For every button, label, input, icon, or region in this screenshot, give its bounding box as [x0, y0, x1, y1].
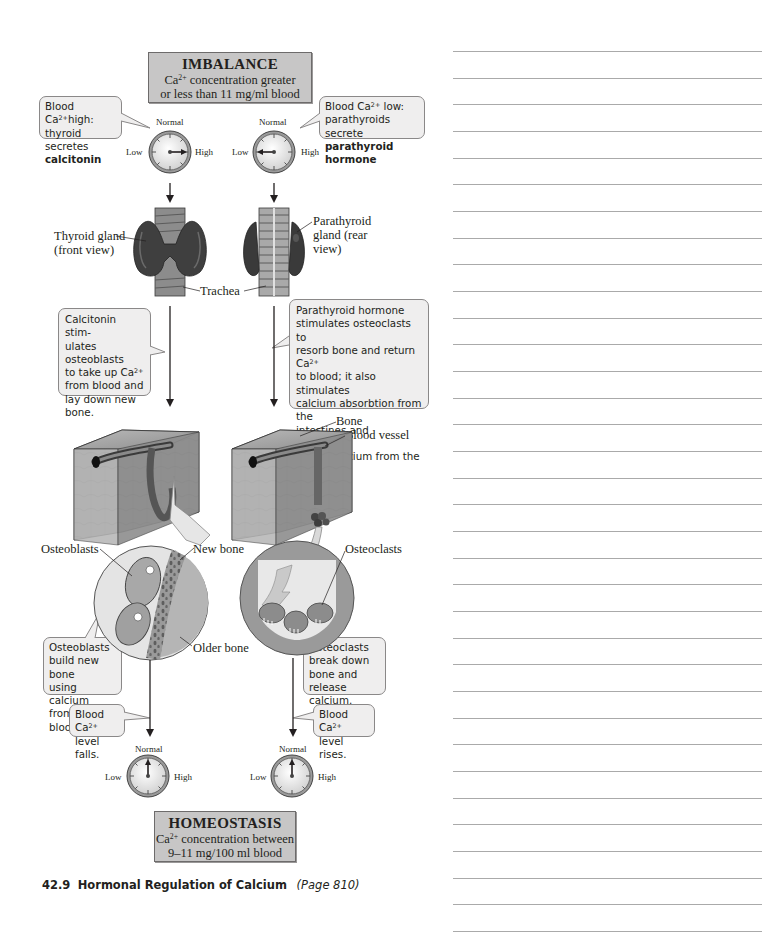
dial-bottom-left: [127, 755, 169, 797]
notes-ruled-line: [453, 398, 762, 399]
dial-bottom-right-normal-label: Normal: [279, 744, 307, 754]
osteoclasts-label: Osteoclasts: [345, 542, 402, 556]
parathyroid-gland-illustration: [244, 208, 312, 296]
figure-title: Hormonal Regulation of Calcium: [78, 878, 287, 892]
dial-top-left-low-label: Low: [126, 147, 143, 157]
bubble-blood-ca-low: Blood Ca2+ low: parathyroids secrete par…: [319, 96, 425, 139]
homeostasis-line-2: 9–11 mg/100 ml blood: [155, 846, 295, 860]
dial-top-right-normal-label: Normal: [259, 117, 287, 127]
bubble-blood-ca-high: Blood Ca2+high: thyroid secretes calcito…: [39, 96, 122, 139]
dial-top-left: [149, 131, 191, 173]
bone-cube-left-illustration: [74, 430, 210, 545]
notes-ruled-line: [453, 371, 762, 372]
notes-ruled-line: [453, 904, 762, 905]
imbalance-box: IMBALANCE Ca2+ concentration greater or …: [148, 52, 312, 103]
imbalance-title: IMBALANCE: [149, 56, 311, 73]
notes-ruled-line: [453, 824, 762, 825]
bubble-osteoblasts-build: Osteoblasts build new bone using calcium…: [43, 637, 122, 695]
thyroid-gland-illustration: [116, 208, 206, 296]
notes-ruled-line: [453, 291, 762, 292]
imbalance-line-1: Ca2+ concentration greater: [149, 73, 311, 87]
notes-ruled-line: [453, 451, 762, 452]
bubble-pth-action: Parathyroid hormone stimulates osteoclas…: [289, 299, 429, 409]
thyroid-gland-label: Thyroid gland (front view): [54, 229, 125, 257]
dial-top-right: [253, 131, 295, 173]
notes-ruled-line: [453, 238, 762, 239]
notes-ruled-line: [453, 131, 762, 132]
notes-ruled-line: [453, 184, 762, 185]
trachea-label: Trachea: [200, 284, 240, 298]
dial-bottom-right-high-label: High: [318, 772, 336, 782]
notes-ruled-line: [453, 878, 762, 879]
dial-top-right-low-label: Low: [232, 147, 249, 157]
notes-ruled-line: [453, 584, 762, 585]
parathyroid-gland-label: Parathyroid gland (rear view): [313, 214, 371, 256]
notes-ruled-line: [453, 718, 762, 719]
bone-label: Bone: [336, 414, 362, 428]
notes-ruled-line: [453, 78, 762, 79]
figure-number: 42.9: [42, 878, 70, 892]
notes-ruled-line: [453, 798, 762, 799]
bubble-calcitonin-action: Calcitonin stim- ulates osteoblasts to t…: [58, 308, 151, 396]
notes-ruled-line: [453, 504, 762, 505]
notes-ruled-line: [453, 211, 762, 212]
older-bone-label: Older bone: [193, 641, 249, 655]
notes-ruled-line: [453, 264, 762, 265]
notes-ruled-line: [453, 558, 762, 559]
dial-top-left-high-label: High: [195, 147, 213, 157]
notes-ruled-line: [453, 771, 762, 772]
notes-ruled-line: [453, 638, 762, 639]
bubble-osteoclasts-break: Osteoclasts break down bone and release …: [303, 637, 386, 695]
dial-bottom-right-low-label: Low: [250, 772, 267, 782]
notes-ruled-line: [453, 931, 762, 932]
notes-ruled-line: [453, 744, 762, 745]
imbalance-line-2: or less than 11 mg/ml blood: [149, 87, 311, 101]
dial-bottom-left-normal-label: Normal: [135, 744, 163, 754]
notes-ruled-line: [453, 51, 762, 52]
blood-vessel-label: Blood vessel: [345, 428, 409, 442]
notes-ruled-line: [453, 851, 762, 852]
dial-top-right-high-label: High: [301, 147, 319, 157]
homeostasis-title: HOMEOSTASIS: [155, 815, 295, 832]
notes-ruled-line: [453, 318, 762, 319]
bubble-level-falls: Blood Ca2+ level falls.: [69, 704, 125, 737]
homeostasis-box: HOMEOSTASIS Ca2+ concentration between 9…: [154, 811, 296, 862]
dial-bottom-left-high-label: High: [174, 772, 192, 782]
figure-page-ref: (Page 810): [297, 878, 360, 892]
bubble-level-rises: Blood Ca2+ level rises.: [313, 704, 375, 737]
notes-ruled-line: [453, 691, 762, 692]
dial-bottom-right: [271, 755, 313, 797]
notes-ruled-line: [453, 611, 762, 612]
notes-ruled-line: [453, 424, 762, 425]
dial-bottom-left-low-label: Low: [105, 772, 122, 782]
notes-ruled-line: [453, 478, 762, 479]
notes-ruled-line: [453, 664, 762, 665]
homeostasis-line-1: Ca2+ concentration between: [155, 832, 295, 846]
new-bone-label: New bone: [193, 542, 244, 556]
dial-top-left-normal-label: Normal: [156, 117, 184, 127]
notes-ruled-line: [453, 531, 762, 532]
notes-ruled-line: [453, 344, 762, 345]
osteoblasts-label: Osteoblasts: [41, 542, 99, 556]
notes-ruled-line: [453, 158, 762, 159]
figure-caption: 42.9 Hormonal Regulation of Calcium (Pag…: [42, 878, 360, 892]
notes-ruled-line: [453, 104, 762, 105]
